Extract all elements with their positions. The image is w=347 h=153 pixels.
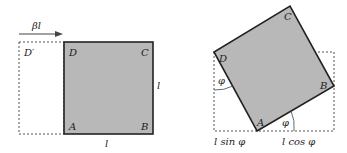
bottom-right-label: l cos φ (282, 136, 315, 147)
corner-d-prime: D′ (23, 47, 35, 58)
corner-c: C (141, 47, 149, 58)
corner-b: B (319, 80, 327, 91)
corner-b: B (140, 121, 148, 132)
corner-d: D (218, 53, 227, 64)
sheared-square (64, 42, 153, 134)
corner-d: D (68, 47, 77, 58)
corner-a: A (256, 117, 264, 128)
side-right-label: l (157, 80, 160, 91)
arrow-label: βl (31, 20, 41, 31)
right-figure: D C B A φ φ l sin φ l cos φ (214, 6, 334, 147)
left-figure: βl D′ D C A B l l (19, 20, 160, 149)
corner-c: C (284, 11, 292, 22)
side-bottom-label: l (105, 138, 108, 149)
shear-rotation-diagram: βl D′ D C A B l l D C B A φ φ l sin φ l … (0, 0, 347, 153)
corner-a: A (68, 121, 76, 132)
rotated-square (214, 6, 334, 131)
angle-arc-left (214, 86, 233, 90)
arrowhead-icon (55, 31, 63, 37)
angle-left-label: φ (218, 75, 225, 86)
angle-arc-bottom (291, 111, 294, 131)
angle-bottom-label: φ (282, 117, 289, 128)
bottom-left-label: l sin φ (214, 136, 245, 147)
